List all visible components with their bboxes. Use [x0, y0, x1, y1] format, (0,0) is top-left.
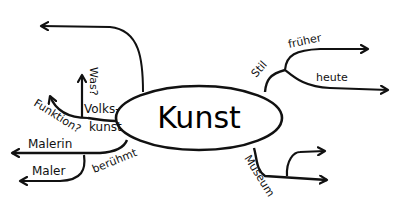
mindmap-diagram: Kunst Was? Funktion? Volks- kunst Maleri…	[0, 0, 398, 200]
label-stil: Stil	[249, 58, 270, 80]
label-was: Was?	[87, 67, 100, 96]
arrow-line-frueher	[285, 49, 368, 70]
mindmap-canvas: Kunst Was? Funktion? Volks- kunst Maleri…	[0, 0, 398, 200]
central-node: Kunst	[116, 86, 282, 150]
label-volkskunst-line2: kunst	[89, 120, 122, 134]
branch-line-stil	[265, 70, 285, 92]
branch-beruehmt: Malerin Maler berühmt	[12, 137, 140, 181]
branch-museum: Museum	[241, 148, 327, 199]
central-label: Kunst	[157, 100, 241, 135]
label-heute: heute	[316, 71, 348, 84]
branch-stil: Stil früher heute	[249, 31, 388, 92]
label-frueher: früher	[287, 31, 323, 51]
label-maler: Maler	[32, 164, 65, 178]
arrow-line-museum-upper	[287, 151, 325, 176]
branch-volkskunst: Was? Funktion? Volks- kunst	[31, 67, 122, 136]
label-malerin: Malerin	[28, 137, 72, 151]
label-volkskunst-line1: Volks-	[84, 102, 119, 116]
